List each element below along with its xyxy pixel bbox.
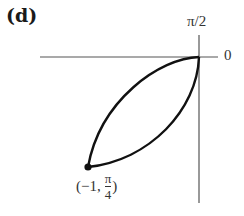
point-label-close: ) [112,178,117,195]
polar-figure: (d) π/2 0 ( −1, π 4 ) [0,0,244,216]
curve-upper-branch [88,57,199,167]
point-label-theta: π 4 [105,172,112,201]
point-marker [84,163,91,170]
angle-label-pi-over-2: π/2 [187,13,206,30]
point-label: ( −1, π 4 ) [76,172,117,201]
point-label-r: −1, [81,178,101,195]
angle-label-zero: 0 [224,47,232,64]
plot-area [0,0,244,216]
theta-denominator: 4 [105,187,112,201]
theta-numerator: π [105,172,112,187]
curve-lower-branch [88,57,199,167]
